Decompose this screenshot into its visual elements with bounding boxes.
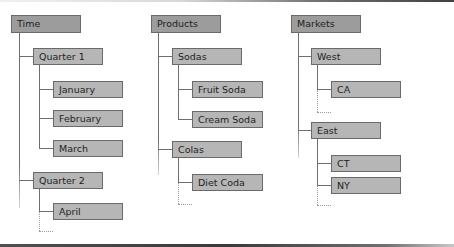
connector-time-quarter1 bbox=[19, 56, 33, 57]
node-march[interactable]: March bbox=[53, 140, 123, 157]
connector-quarter1-february bbox=[39, 118, 53, 119]
node-time[interactable]: Time bbox=[11, 15, 81, 33]
node-fruit-soda[interactable]: Fruit Soda bbox=[192, 81, 263, 98]
continuation-east bbox=[317, 186, 318, 205]
connector-markets-east bbox=[298, 130, 311, 131]
connector-east-ny bbox=[317, 185, 331, 186]
continuation-colas bbox=[178, 183, 179, 204]
node-colas[interactable]: Colas bbox=[172, 141, 242, 158]
connector-products-colas bbox=[158, 149, 172, 150]
connector-sodas-cream-soda bbox=[178, 119, 192, 120]
continuation-colas-tail bbox=[178, 204, 192, 205]
connector-colas-diet-coda bbox=[178, 182, 192, 183]
node-cream-soda[interactable]: Cream Soda bbox=[192, 111, 263, 128]
connector-products-sodas bbox=[158, 56, 172, 57]
connector-time-quarter2 bbox=[19, 180, 33, 181]
continuation-west bbox=[317, 90, 318, 112]
connector-quarter1-january bbox=[39, 89, 53, 90]
node-east[interactable]: East bbox=[311, 122, 381, 139]
connector-east-trunk bbox=[317, 138, 318, 185]
connector-colas-trunk bbox=[178, 157, 179, 182]
node-west[interactable]: West bbox=[311, 48, 381, 65]
connector-west-ca bbox=[317, 89, 331, 90]
connector-quarter2-trunk bbox=[39, 188, 40, 211]
node-january[interactable]: January bbox=[53, 81, 123, 98]
node-quarter-1[interactable]: Quarter 1 bbox=[33, 48, 103, 65]
node-ct[interactable]: CT bbox=[331, 155, 401, 172]
connector-west-trunk bbox=[317, 64, 318, 89]
continuation-quarter2-tail bbox=[39, 231, 53, 232]
node-ny[interactable]: NY bbox=[331, 177, 401, 194]
connector-markets-trunk bbox=[298, 32, 299, 158]
node-products[interactable]: Products bbox=[151, 15, 221, 33]
node-quarter-2[interactable]: Quarter 2 bbox=[33, 172, 103, 189]
connector-quarter2-april bbox=[39, 211, 53, 212]
continuation-west-tail bbox=[317, 112, 331, 113]
node-diet-coda[interactable]: Diet Coda bbox=[192, 174, 263, 191]
connector-sodas-trunk bbox=[178, 64, 179, 119]
connector-quarter1-march bbox=[39, 148, 53, 149]
connector-east-ct bbox=[317, 163, 331, 164]
connector-quarter1-trunk bbox=[39, 64, 40, 149]
node-sodas[interactable]: Sodas bbox=[172, 48, 242, 65]
connector-sodas-fruit-soda bbox=[178, 89, 192, 90]
node-ca[interactable]: CA bbox=[331, 81, 401, 98]
node-february[interactable]: February bbox=[53, 110, 123, 127]
connector-markets-west bbox=[298, 56, 311, 57]
continuation-east-tail bbox=[317, 205, 331, 206]
connector-time-trunk bbox=[19, 32, 20, 208]
node-april[interactable]: April bbox=[53, 203, 123, 220]
continuation-quarter2 bbox=[39, 212, 40, 231]
node-markets[interactable]: Markets bbox=[291, 15, 361, 33]
top-border-rule bbox=[0, 0, 454, 2]
connector-products-trunk bbox=[158, 32, 159, 175]
